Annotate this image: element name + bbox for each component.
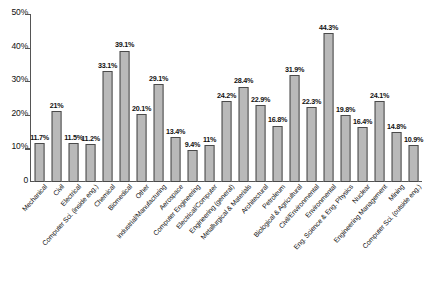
bar[interactable] xyxy=(255,105,266,182)
bar-slot: 16.8% xyxy=(269,14,286,182)
plot-area: 11.7%21%11.5%11.2%33.1%39.1%20.1%29.1%13… xyxy=(31,14,422,182)
x-axis-category-label: Mechanical xyxy=(20,183,48,212)
bar-slot: 33.1% xyxy=(99,14,116,182)
bar[interactable] xyxy=(340,115,351,182)
bar-value-label: 14.8% xyxy=(387,123,406,130)
bar-slot: 10.9% xyxy=(405,14,422,182)
bar-slot: 39.1% xyxy=(116,14,133,182)
y-axis-tick-labels: 50%40%30%20%10%0 xyxy=(0,12,28,182)
bar-slot: 24.2% xyxy=(218,14,235,182)
y-axis-tick-label: 0 xyxy=(0,176,28,185)
bar-value-label: 16.4% xyxy=(353,118,372,125)
bar-slot: 11.7% xyxy=(31,14,48,182)
bar[interactable] xyxy=(204,145,215,182)
x-axis-category-labels: MechanicalCivilElectricalComputer Sci. (… xyxy=(31,183,422,295)
bar-value-label: 21% xyxy=(50,102,64,109)
bar-slot: 29.1% xyxy=(150,14,167,182)
bar-value-label: 19.8% xyxy=(336,106,355,113)
y-axis-tick-label: 50% xyxy=(0,8,28,17)
bar-slot: 44.3% xyxy=(320,14,337,182)
y-axis-tick-label: 30% xyxy=(0,75,28,84)
bar-value-label: 24.2% xyxy=(217,92,236,99)
bar-slot: 11% xyxy=(201,14,218,182)
y-axis-tick-label: 20% xyxy=(0,108,28,117)
bar-value-label: 11% xyxy=(203,136,216,143)
bar[interactable] xyxy=(374,101,385,182)
x-axis-category-label: Civil xyxy=(51,183,64,197)
bar-value-label: 39.1% xyxy=(115,41,134,48)
bar-value-label: 31.9% xyxy=(285,66,304,73)
bar-slot: 13.4% xyxy=(167,14,184,182)
bar[interactable] xyxy=(391,132,402,182)
y-axis-tick-mark xyxy=(25,48,30,49)
bar-slot: 24.1% xyxy=(371,14,388,182)
y-axis-tick-mark xyxy=(25,14,30,15)
bar[interactable] xyxy=(51,111,62,182)
bar-slot: 11.5% xyxy=(65,14,82,182)
bar-slot: 21% xyxy=(48,14,65,182)
bar-value-label: 10.9% xyxy=(404,136,423,143)
bar-value-label: 11.2% xyxy=(81,135,100,142)
y-axis-tick-label: 10% xyxy=(0,142,28,151)
bar[interactable] xyxy=(306,107,317,182)
y-axis-tick-mark xyxy=(25,148,30,149)
bar[interactable] xyxy=(170,137,181,182)
bar-value-label: 33.1% xyxy=(98,62,117,69)
bar[interactable] xyxy=(272,126,283,182)
bar-value-label: 28.4% xyxy=(234,77,253,84)
y-axis-tick-mark xyxy=(25,115,30,116)
bar-value-label: 29.1% xyxy=(149,75,168,82)
bar-value-label: 11.7% xyxy=(30,134,49,141)
bar-value-label: 22.3% xyxy=(302,98,321,105)
bar[interactable] xyxy=(357,127,368,182)
bar-value-label: 9.4% xyxy=(185,141,200,148)
bar-value-label: 22.9% xyxy=(251,96,270,103)
bar-value-label: 16.8% xyxy=(268,116,287,123)
bar-slot: 28.4% xyxy=(235,14,252,182)
bar-slot: 22.3% xyxy=(303,14,320,182)
y-axis-tick-label: 40% xyxy=(0,41,28,50)
bar[interactable] xyxy=(187,150,198,182)
bar[interactable] xyxy=(408,145,419,182)
bar[interactable] xyxy=(119,51,130,182)
bar-slot: 19.8% xyxy=(337,14,354,182)
bar[interactable] xyxy=(323,33,334,182)
bar[interactable] xyxy=(153,84,164,182)
bar[interactable] xyxy=(238,87,249,182)
bar-value-label: 20.1% xyxy=(132,105,151,112)
bar[interactable] xyxy=(34,143,45,182)
bar[interactable] xyxy=(136,114,147,182)
bar[interactable] xyxy=(221,101,232,182)
bar-value-label: 44.3% xyxy=(319,24,338,31)
bar-slot: 31.9% xyxy=(286,14,303,182)
bar[interactable] xyxy=(289,75,300,182)
bar[interactable] xyxy=(68,143,79,182)
y-axis-tick-mark xyxy=(25,81,30,82)
bar-slot: 20.1% xyxy=(133,14,150,182)
bar-slot: 16.4% xyxy=(354,14,371,182)
bar-value-label: 13.4% xyxy=(166,128,185,135)
bar-value-label: 11.5% xyxy=(64,134,83,141)
bar[interactable] xyxy=(85,144,96,182)
bar[interactable] xyxy=(102,71,113,182)
bar-slot: 22.9% xyxy=(252,14,269,182)
bar-slot: 11.2% xyxy=(82,14,99,182)
bar-slot: 9.4% xyxy=(184,14,201,182)
bar-slot: 14.8% xyxy=(388,14,405,182)
bar-chart: 50%40%30%20%10%0 11.7%21%11.5%11.2%33.1%… xyxy=(0,0,426,295)
bar-value-label: 24.1% xyxy=(370,92,389,99)
